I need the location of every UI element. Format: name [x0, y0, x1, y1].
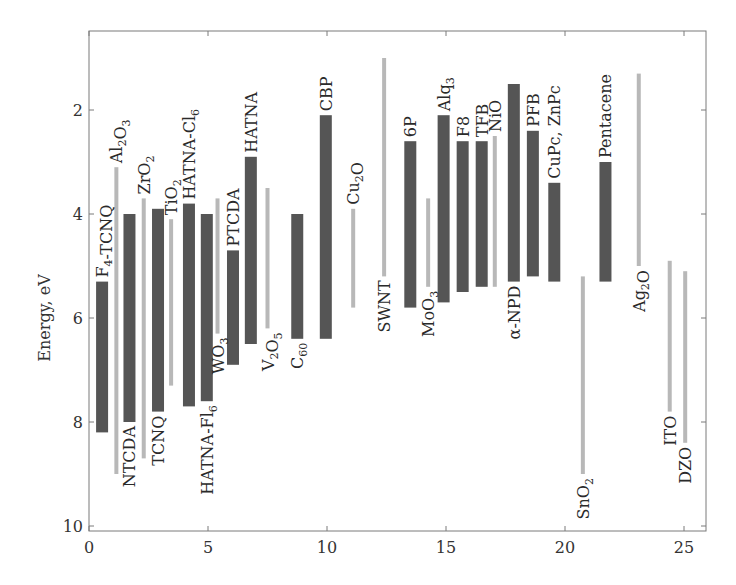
- bar-label: Pentacene: [596, 74, 615, 158]
- x-tick-label: 10: [317, 538, 337, 557]
- bar-label: DZO: [676, 447, 695, 484]
- bar-6p: [404, 141, 416, 307]
- bar-label: PTCDA: [224, 188, 243, 247]
- y-tick-label: 6: [73, 309, 83, 328]
- bar-label: 6P: [401, 116, 420, 137]
- y-tick-label: 2: [73, 101, 83, 120]
- bar-hatna-cl6: [183, 204, 195, 407]
- bar-label: Ag2O: [630, 270, 653, 313]
- y-tick-label: 4: [73, 205, 83, 224]
- bar-f8: [457, 141, 469, 292]
- bar-label: ITO: [661, 416, 680, 446]
- bar-cupc-znpc: [548, 183, 560, 282]
- bar-zro2: [142, 198, 146, 458]
- y-axis-label: Energy, eV: [35, 274, 54, 362]
- bar-label: PFB: [524, 93, 543, 127]
- bar-label: NTCDA: [120, 426, 139, 488]
- bar--npd: [508, 84, 520, 282]
- bar-hatna: [245, 157, 257, 344]
- bar-ito: [668, 261, 672, 412]
- bar-swnt: [382, 58, 386, 276]
- bar-label: HATNA: [242, 91, 261, 152]
- bar-label: HATNA-Fl6: [198, 405, 220, 494]
- bar-pentacene: [599, 162, 611, 282]
- bar-label: C60: [288, 343, 310, 369]
- bar-label: V2O5: [259, 332, 285, 372]
- bar-label: SWNT: [375, 280, 394, 332]
- bar-moo3: [426, 198, 430, 286]
- bar-label: F8: [454, 116, 473, 137]
- bar-tio2: [169, 219, 173, 385]
- bar-label: CuPc, ZnPc: [545, 85, 564, 179]
- y-tick-label: 10: [63, 517, 83, 536]
- bar-label: α-NPD: [505, 286, 524, 340]
- bar-label: NiO: [486, 100, 505, 132]
- bar-wo3: [216, 198, 220, 333]
- bar-c60: [291, 214, 303, 339]
- bar-label: Cu2O: [344, 162, 367, 205]
- bar-ag2o: [637, 74, 641, 266]
- bar-v2o5: [266, 188, 270, 328]
- bar-alq3: [438, 115, 450, 302]
- x-tick-label: 5: [203, 538, 213, 557]
- bar-label: MoO3: [419, 291, 441, 337]
- bar-tfb: [476, 141, 488, 287]
- bar-nio: [493, 136, 497, 287]
- bar-sno2: [581, 276, 585, 474]
- y-tick-label: 8: [73, 413, 83, 432]
- bar-ptcda: [227, 250, 239, 364]
- x-tick-label: 20: [555, 538, 575, 557]
- bar-label: CBP: [317, 76, 336, 111]
- x-tick-label: 0: [84, 538, 94, 557]
- bar-label: Al2O3: [107, 119, 133, 164]
- bar-label: HATNA-Cl6: [180, 109, 202, 200]
- bar-cbp: [320, 115, 332, 339]
- bar-cu2o: [351, 209, 355, 308]
- x-tick-label: 25: [674, 538, 694, 557]
- bar-label: ZrO2: [135, 156, 157, 195]
- bar-f4-tcnq: [96, 282, 108, 433]
- bar-label: Alq3: [435, 77, 457, 112]
- bar-dzo: [683, 271, 687, 443]
- energy-level-chart: 0510152025246810 F4-TCNQAl2O3NTCDAZrO2TC…: [0, 0, 736, 585]
- bar-label: F4-TCNQ: [93, 205, 116, 278]
- bar-tcnq: [152, 209, 164, 412]
- bar-label: SnO2: [574, 478, 596, 519]
- x-tick-label: 15: [436, 538, 456, 557]
- bar-label: TCNQ: [149, 416, 168, 466]
- bar-pfb: [527, 131, 539, 277]
- bar-ntcda: [123, 214, 135, 422]
